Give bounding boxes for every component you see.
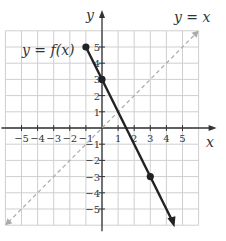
x-tick-label: −4	[30, 133, 45, 144]
y-tick-label: −2	[85, 155, 100, 166]
data-point	[147, 173, 154, 180]
x-tick-label: 4	[163, 133, 169, 144]
identity-arrow-icon	[5, 218, 12, 225]
y-axis-arrow-icon	[99, 10, 105, 18]
f-function-label: y = f(x)	[21, 42, 75, 58]
identity-line-label: y = x	[173, 9, 211, 25]
x-tick-label: −5	[14, 133, 29, 144]
x-tick-label: 3	[147, 133, 153, 144]
y-tick-label: 1	[94, 107, 100, 118]
y-tick-label: −5	[85, 204, 100, 215]
y-tick-label: 5	[94, 42, 100, 53]
y-axis-label: y	[85, 7, 95, 23]
x-axis-label: x	[206, 134, 214, 150]
x-tick-label: 1	[115, 133, 121, 144]
graph-canvas: −5−4−3−2−11234554321−1−2−3−4−5 y x y = f…	[0, 0, 226, 241]
y-tick-label: −3	[85, 172, 100, 183]
y-tick-label: 2	[94, 91, 100, 102]
data-point	[82, 43, 89, 50]
x-tick-label: −3	[46, 133, 61, 144]
data-point	[98, 76, 105, 83]
x-axis-arrow-icon	[209, 125, 217, 131]
y-tick-label: −1	[85, 139, 100, 150]
x-tick-label: −2	[62, 133, 77, 144]
x-tick-label: 5	[179, 133, 185, 144]
y-tick-label: −4	[85, 188, 100, 199]
